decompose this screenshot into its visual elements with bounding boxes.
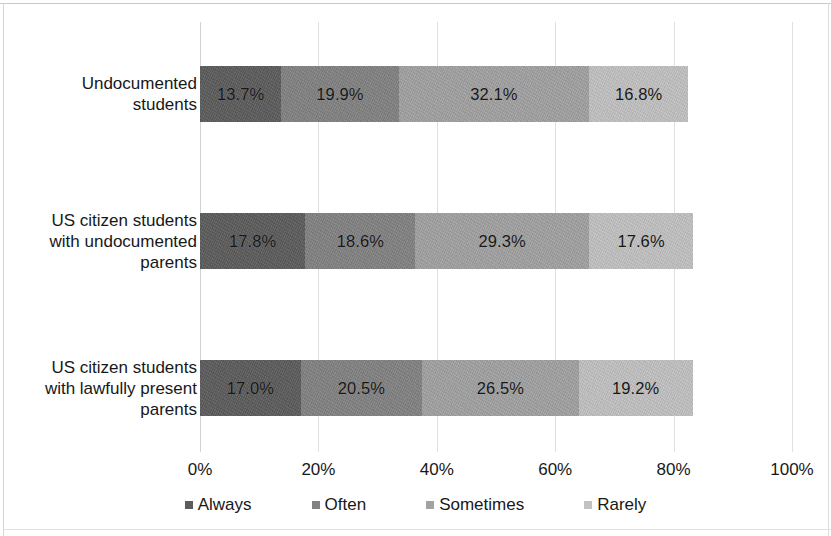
bar-segment-value-label: 32.1% (470, 85, 517, 104)
stacked-bar-chart: 13.7%19.9%32.1%16.8%17.8%18.6%29.3%17.6%… (0, 0, 831, 536)
bar-segment-value-label: 13.7% (217, 85, 264, 104)
bar-segment-sometimes: 32.1% (399, 66, 589, 122)
legend-item-rarely[interactable]: Rarely (584, 495, 646, 515)
x-axis-tick-label: 80% (657, 460, 691, 480)
x-axis-tick-label: 100% (770, 460, 813, 480)
bar-row: 17.0%20.5%26.5%19.2% (200, 360, 693, 416)
bar-segment-rarely: 16.8% (589, 66, 688, 122)
plot-area: 13.7%19.9%32.1%16.8%17.8%18.6%29.3%17.6%… (200, 22, 792, 452)
bar-segment-often: 19.9% (281, 66, 399, 122)
legend-label: Rarely (597, 495, 646, 515)
bar-segment-value-label: 29.3% (479, 232, 526, 251)
category-label-line: students (133, 94, 197, 115)
category-label-line: US citizen students (51, 357, 197, 378)
category-label-line: parents (140, 399, 197, 420)
bar-segment-always: 17.8% (200, 213, 305, 269)
bar-segment-value-label: 17.6% (617, 232, 664, 251)
bar-segment-sometimes: 29.3% (415, 213, 588, 269)
gridline-100 (792, 22, 793, 452)
legend-label: Sometimes (439, 495, 524, 515)
category-label: US citizen studentswith undocumentedpare… (0, 213, 197, 269)
bar-segment-value-label: 17.0% (227, 379, 274, 398)
x-axis-tick-label: 20% (301, 460, 335, 480)
bar-segment-value-label: 19.9% (316, 85, 363, 104)
legend-item-sometimes[interactable]: Sometimes (426, 495, 524, 515)
category-label-line: with lawfully present (45, 378, 197, 399)
bar-segment-often: 20.5% (301, 360, 422, 416)
bar-segment-value-label: 16.8% (615, 85, 662, 104)
bar-segment-often: 18.6% (305, 213, 415, 269)
bar-segment-value-label: 18.6% (337, 232, 384, 251)
bar-row: 17.8%18.6%29.3%17.6% (200, 213, 693, 269)
category-label: Undocumentedstudents (0, 66, 197, 122)
chart-legend: AlwaysOftenSometimesRarely (0, 495, 831, 515)
bar-segment-rarely: 17.6% (589, 213, 693, 269)
category-label-line: Undocumented (82, 73, 197, 94)
category-label-line: parents (140, 252, 197, 273)
legend-label: Always (198, 495, 252, 515)
bar-segment-value-label: 17.8% (229, 232, 276, 251)
bar-segment-value-label: 20.5% (338, 379, 385, 398)
bar-segment-always: 17.0% (200, 360, 301, 416)
bar-segment-value-label: 19.2% (612, 379, 659, 398)
legend-item-often[interactable]: Often (312, 495, 367, 515)
bar-segment-value-label: 26.5% (477, 379, 524, 398)
bar-segment-rarely: 19.2% (579, 360, 693, 416)
bar-segment-always: 13.7% (200, 66, 281, 122)
category-label: US citizen studentswith lawfully present… (0, 360, 197, 416)
legend-item-always[interactable]: Always (185, 495, 252, 515)
x-axis: 0%20%40%60%80%100% (0, 452, 831, 486)
x-axis-tick-label: 0% (188, 460, 213, 480)
category-label-line: with undocumented (50, 231, 197, 252)
legend-swatch-icon (185, 501, 193, 509)
bar-segment-sometimes: 26.5% (422, 360, 579, 416)
legend-swatch-icon (426, 501, 434, 509)
legend-swatch-icon (312, 501, 320, 509)
category-label-line: US citizen students (51, 210, 197, 231)
legend-swatch-icon (584, 501, 592, 509)
x-axis-tick-label: 60% (538, 460, 572, 480)
bar-row: 13.7%19.9%32.1%16.8% (200, 66, 688, 122)
legend-label: Often (325, 495, 367, 515)
x-axis-tick-label: 40% (420, 460, 454, 480)
